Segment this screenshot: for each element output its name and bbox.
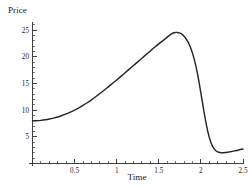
y-tick-label: 25 xyxy=(22,27,30,35)
price-series-line xyxy=(33,32,244,152)
x-tick-label: 2 xyxy=(199,167,203,175)
y-tick-label: 5 xyxy=(25,133,29,141)
x-tick-label: 1 xyxy=(115,167,119,175)
y-axis-tick-labels: 510152025 xyxy=(22,27,30,142)
y-tick-label: 20 xyxy=(22,53,30,61)
x-axis-tick-labels: 0.511.522.5 xyxy=(70,167,248,175)
x-tick-label: 0.5 xyxy=(70,167,79,175)
price-time-chart: 510152025 0.511.522.5 Price Time xyxy=(0,0,252,187)
y-axis-title: Price xyxy=(8,5,27,15)
x-tick-label: 2.5 xyxy=(239,167,248,175)
x-tick-label: 1.5 xyxy=(154,167,163,175)
chart-canvas: 510152025 0.511.522.5 Price Time xyxy=(0,0,252,187)
y-tick-label: 10 xyxy=(22,107,30,115)
x-axis-title: Time xyxy=(127,172,146,182)
y-tick-label: 15 xyxy=(22,80,30,88)
